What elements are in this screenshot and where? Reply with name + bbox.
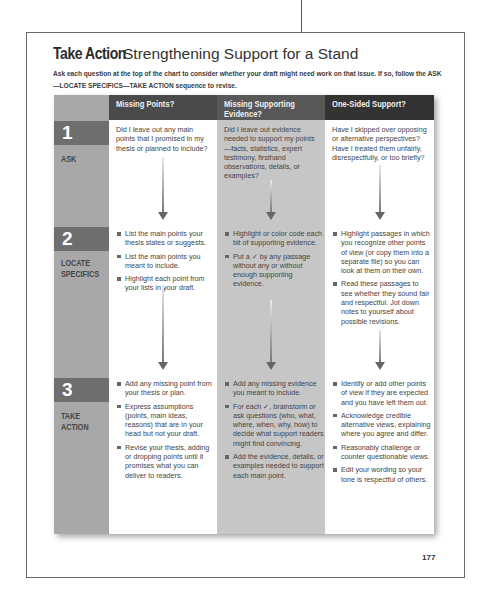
list-item: Acknowledge credible alternative views, … <box>332 411 432 439</box>
arrow-down-icon <box>158 285 168 370</box>
list-item: Express assumptions (points, main ideas,… <box>116 402 216 439</box>
page-title: Take Action Strengthening Support for a … <box>53 44 142 64</box>
list-item: List the main points you meant to includ… <box>116 252 216 271</box>
list-item: For each ✓, brainstorm or ask questions … <box>224 402 324 448</box>
step-label-locate: LOCATESPECIFICS <box>61 258 109 280</box>
connector-line <box>301 0 302 33</box>
step-label-ask: ASK <box>61 154 80 165</box>
ask-cell-3: Have I skipped over opposing or alternat… <box>332 125 430 162</box>
arrow-down-icon <box>375 165 385 220</box>
step-badge-1: 1 <box>54 121 109 145</box>
header-corner <box>54 95 109 120</box>
list-item: Add any missing point from your thesis o… <box>116 379 216 398</box>
title-main: Take Action <box>53 44 126 64</box>
action-chart: Missing Points? Missing Supporting Evide… <box>54 95 434 534</box>
ask-cell-1: Did I leave out any main points that I p… <box>116 125 212 153</box>
column-header-3: One-Sided Support? <box>325 95 434 120</box>
page-number: 177 <box>422 553 435 562</box>
action-cell-2: Add any missing evidence you meant to in… <box>224 379 324 484</box>
column-header-1: Missing Points? <box>109 95 217 120</box>
list-item: Put a ✓ by any passage without any or wi… <box>224 252 324 289</box>
step-label-take-action: TAKEACTION <box>61 411 96 433</box>
action-cell-1: Add any missing point from your thesis o… <box>116 379 216 484</box>
list-item: Edit your wording so your tone is respec… <box>332 465 432 484</box>
locate-cell-3: Highlight passages in which you recogniz… <box>332 229 432 330</box>
list-item: Add the evidence, details, or examples n… <box>224 452 324 480</box>
list-item: Add any missing evidence you meant to in… <box>224 379 324 398</box>
locate-cell-2: Highlight or color code each bit of supp… <box>224 229 324 293</box>
arrow-down-icon <box>266 180 276 220</box>
list-item: Reasonably challenge or counter question… <box>332 443 432 462</box>
arrow-down-icon <box>158 157 168 220</box>
list-item: Highlight passages in which you recogniz… <box>332 229 432 275</box>
list-item: Highlight or color code each bit of supp… <box>224 229 324 248</box>
list-item: Read these passages to see whether they … <box>332 279 432 325</box>
intro-text: Ask each question at the top of the char… <box>53 68 443 92</box>
column-header-2: Missing Supporting Evidence? <box>217 95 325 120</box>
list-item: Identify or add other points of view if … <box>332 379 432 407</box>
step-badge-2: 2 <box>54 227 109 251</box>
title-subtitle: Strengthening Support for a Stand <box>123 45 358 63</box>
step-badge-3: 3 <box>54 378 109 402</box>
arrow-down-icon <box>266 300 276 370</box>
list-item: Revise your thesis, adding or dropping p… <box>116 443 216 480</box>
arrow-down-icon <box>375 330 385 370</box>
ask-cell-2: Did I leave out evidence needed to suppo… <box>224 125 320 181</box>
action-cell-3: Identify or add other points of view if … <box>332 379 432 488</box>
list-item: List the main points your thesis states … <box>116 229 216 248</box>
